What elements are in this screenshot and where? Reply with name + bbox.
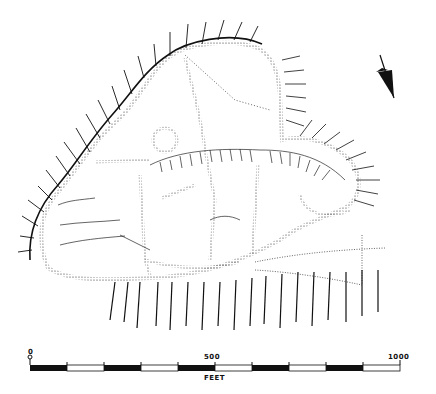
north-arrow-icon [376,55,394,98]
scale-label-0: 0 [28,348,33,356]
scale-label-1000: 1000 [388,353,409,361]
site-plan [0,0,436,394]
scale-label-500: 500 [204,353,220,361]
outer-rampart [41,43,359,280]
outer-scarp [18,20,380,260]
scale-unit-label: FEET [204,374,225,382]
inner-banks [95,58,350,275]
